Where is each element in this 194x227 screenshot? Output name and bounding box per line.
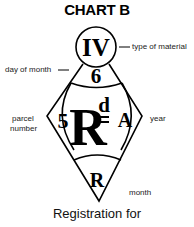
label-day-of-month: day of month — [5, 65, 51, 74]
label-month: month — [129, 188, 151, 197]
caption: Registration for — [0, 206, 194, 221]
label-type-of-material: type of material — [132, 42, 187, 51]
material-mark: IV — [82, 34, 110, 61]
registered-d-mark: d — [98, 93, 110, 117]
label-year: year — [150, 114, 166, 123]
parcel-mark: 5 — [58, 108, 69, 133]
day-mark: 6 — [91, 64, 102, 88]
month-mark: R — [90, 169, 105, 191]
label-parcel-line2: number — [10, 124, 37, 133]
label-parcel-line1: parcel — [12, 114, 34, 123]
d-underline-2 — [99, 121, 109, 123]
year-mark: A — [118, 109, 133, 131]
d-underline-1 — [99, 116, 109, 118]
